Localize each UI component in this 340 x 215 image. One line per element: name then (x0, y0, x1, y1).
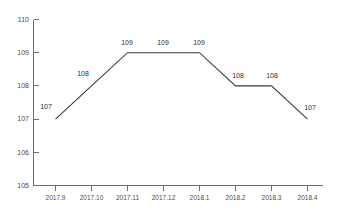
y-tick-label-110: 110 (18, 16, 29, 23)
x-tick-label-4: 2018.1 (190, 194, 210, 201)
x-tick-label-2: 2017.11 (116, 194, 139, 201)
x-tick-label-5: 2018.2 (226, 194, 246, 201)
y-tick-label-107: 107 (17, 115, 29, 122)
data-label-5: 108 (232, 72, 244, 79)
data-series-line (56, 53, 308, 119)
data-label-0: 107 (40, 103, 52, 110)
x-axis-ticks (56, 186, 308, 191)
y-tick-label-109: 109 (17, 49, 29, 56)
x-tick-label-7: 2018.4 (298, 194, 318, 201)
data-label-4: 109 (193, 39, 205, 46)
chart-canvas: 110 109 108 107 106 105 2017.9 (0, 0, 340, 215)
x-tick-label-0: 2017.9 (46, 194, 66, 201)
data-label-3: 109 (157, 39, 169, 46)
data-label-2: 109 (121, 39, 133, 46)
x-tick-label-6: 2018.3 (262, 194, 282, 201)
data-label-7: 107 (304, 104, 316, 111)
y-tick-label-105: 105 (17, 182, 29, 189)
data-point-labels: 107 108 109 109 109 108 108 107 (40, 39, 316, 111)
x-tick-label-1: 2017.10 (80, 194, 104, 201)
data-label-1: 108 (77, 70, 89, 77)
line-chart: 110 109 108 107 106 105 2017.9 (0, 0, 340, 215)
data-label-6: 108 (266, 72, 278, 79)
chart-axes (34, 20, 323, 186)
x-axis-labels: 2017.9 2017.10 2017.11 2017.12 2018.1 20… (46, 194, 318, 201)
y-axis-ticks: 110 109 108 107 106 105 (17, 16, 38, 189)
x-tick-label-3: 2017.12 (152, 194, 176, 201)
y-tick-label-106: 106 (17, 149, 29, 156)
y-tick-label-108: 108 (17, 82, 29, 89)
